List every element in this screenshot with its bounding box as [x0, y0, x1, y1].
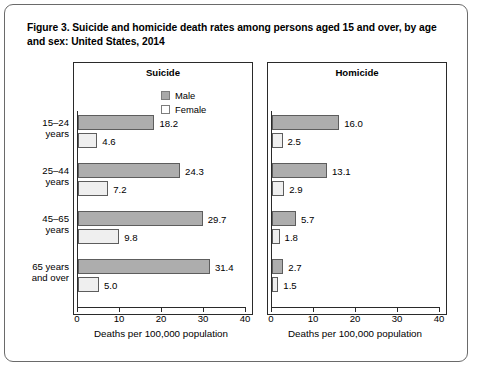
bar-row: 1.8 [272, 229, 440, 244]
bar-suicide-female [78, 181, 108, 196]
bar-value-label: 13.1 [332, 165, 351, 176]
bar-value-label: 9.8 [124, 231, 137, 242]
category-label-line2: and over [7, 272, 69, 283]
x-axis-tick [203, 307, 204, 312]
bar-suicide-female [78, 277, 99, 292]
x-axis-tick-label: 20 [350, 313, 361, 324]
bar-value-label: 5.0 [104, 279, 117, 290]
bar-row: 31.4 [78, 259, 246, 274]
bar-row: 13.1 [272, 163, 440, 178]
x-axis-tick-label: 40 [434, 313, 445, 324]
bar-value-label: 18.2 [159, 117, 178, 128]
x-axis-tick-label: 0 [268, 313, 273, 324]
x-axis-tick-label: 30 [392, 313, 403, 324]
category-axis-labels: 15–24years25–44years45–65years65 yearsan… [5, 62, 69, 315]
bar-row: 2.7 [272, 259, 440, 274]
panel-suicide-title: Suicide [73, 67, 253, 78]
category-label: 15–24years [7, 117, 69, 140]
bar-row: 1.5 [272, 277, 440, 292]
bar-homicide-female [272, 229, 280, 244]
legend-swatch-icon [161, 91, 170, 100]
bar-value-label: 7.2 [113, 183, 126, 194]
bar-homicide-male [272, 163, 327, 178]
x-axis-tick [313, 307, 314, 312]
bar-value-label: 2.9 [289, 183, 302, 194]
panel-homicide-title: Homicide [267, 67, 447, 78]
legend-item-male: Male [161, 89, 206, 102]
bar-row: 2.5 [272, 133, 440, 148]
bar-homicide-female [272, 277, 278, 292]
bar-suicide-male [78, 211, 203, 226]
bar-value-label: 2.5 [288, 135, 301, 146]
x-axis-tick [77, 307, 78, 312]
x-axis-tick [355, 307, 356, 312]
figure-title: Figure 3. Suicide and homicide death rat… [27, 21, 457, 48]
bar-row: 16.0 [272, 115, 440, 130]
category-label: 25–44years [7, 165, 69, 188]
plot-area-homicide: 16.02.513.12.95.71.82.71.5 [271, 111, 439, 307]
x-axis-tick [161, 307, 162, 312]
legend-item-label: Male [175, 90, 195, 101]
bar-suicide-male [78, 115, 154, 130]
bar-homicide-male [272, 259, 283, 274]
bar-value-label: 29.7 [208, 213, 227, 224]
x-axis-title: Deaths per 100,000 population [94, 328, 228, 339]
category-label: 45–65years [7, 213, 69, 236]
bar-value-label: 1.8 [285, 231, 298, 242]
bar-row: 7.2 [78, 181, 246, 196]
bar-homicide-male [272, 211, 296, 226]
bar-value-label: 5.7 [301, 213, 314, 224]
x-axis-tick-label: 20 [156, 313, 167, 324]
x-axis-tick [271, 307, 272, 312]
x-axis-tick-label: 10 [114, 313, 125, 324]
bar-row: 29.7 [78, 211, 246, 226]
bar-homicide-male [272, 115, 339, 130]
category-label-line1: 45–65 [7, 213, 69, 224]
category-label-line1: 15–24 [7, 117, 69, 128]
bar-suicide-female [78, 229, 119, 244]
x-axis-homicide: 010203040Deaths per 100,000 population [271, 307, 439, 337]
plot-area-suicide: 18.24.624.37.229.79.831.45.0 [77, 111, 245, 307]
category-label-line2: years [7, 224, 69, 235]
bar-value-label: 31.4 [215, 261, 234, 272]
category-label: 65 yearsand over [7, 261, 69, 284]
x-axis-tick [439, 307, 440, 312]
bar-homicide-female [272, 181, 284, 196]
bar-suicide-female [78, 133, 97, 148]
bar-row: 24.3 [78, 163, 246, 178]
category-label-line2: years [7, 176, 69, 187]
x-axis-tick-label: 40 [240, 313, 251, 324]
x-axis-tick [397, 307, 398, 312]
bar-homicide-female [272, 133, 283, 148]
bar-row: 5.0 [78, 277, 246, 292]
bar-row: 5.7 [272, 211, 440, 226]
bar-value-label: 16.0 [344, 117, 363, 128]
bar-value-label: 24.3 [185, 165, 204, 176]
bar-value-label: 1.5 [283, 279, 296, 290]
x-axis-tick-label: 10 [308, 313, 319, 324]
x-axis-suicide: 010203040Deaths per 100,000 population [77, 307, 245, 337]
x-axis-tick [245, 307, 246, 312]
x-axis-tick-label: 30 [198, 313, 209, 324]
category-label-line1: 25–44 [7, 165, 69, 176]
figure-container: Figure 3. Suicide and homicide death rat… [4, 4, 468, 362]
bar-row: 9.8 [78, 229, 246, 244]
x-axis-title: Deaths per 100,000 population [288, 328, 422, 339]
bar-suicide-male [78, 259, 210, 274]
panel-homicide: Homicide 16.02.513.12.95.71.82.71.5 0102… [267, 62, 447, 315]
bar-value-label: 4.6 [102, 135, 115, 146]
bar-row: 2.9 [272, 181, 440, 196]
bar-row: 4.6 [78, 133, 246, 148]
x-axis-tick [119, 307, 120, 312]
bar-row: 18.2 [78, 115, 246, 130]
bar-suicide-male [78, 163, 180, 178]
x-axis-tick-label: 0 [74, 313, 79, 324]
bar-value-label: 2.7 [288, 261, 301, 272]
category-label-line1: 65 years [7, 261, 69, 272]
category-label-line2: years [7, 128, 69, 139]
panel-suicide: Suicide MaleFemale 18.24.624.37.229.79.8… [73, 62, 253, 315]
